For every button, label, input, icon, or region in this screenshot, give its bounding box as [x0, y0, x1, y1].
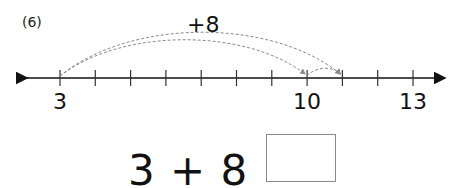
tick-label-10: 10 [293, 89, 321, 114]
tick-label-3: 3 [53, 89, 67, 114]
jump-arcs [60, 32, 340, 76]
answer-input-box[interactable] [266, 134, 336, 182]
tick-label-13: 13 [399, 89, 427, 114]
